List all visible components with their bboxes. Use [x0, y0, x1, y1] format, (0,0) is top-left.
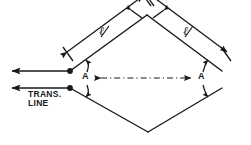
transmission-line-feed: [12, 68, 73, 91]
angle-leader-right-lower: [203, 85, 208, 97]
angle-label-right: A: [198, 72, 205, 82]
feed-terminal-upper: [67, 68, 73, 74]
diagram-canvas: [0, 0, 251, 145]
apex-arrow-right: [153, 10, 164, 18]
angle-leader-left-lower: [86, 85, 88, 97]
lower-right-leg: [148, 88, 222, 132]
apex-arrow-left: [131, 10, 142, 18]
dimension-right-measure: [152, 0, 227, 52]
dimension-left-tick-end: [141, 0, 151, 6]
dimension-line-left: [63, 0, 151, 61]
feed-terminal-lower: [67, 85, 73, 91]
angle-label-left: A: [82, 72, 89, 82]
length-label-right: ℓ: [183, 25, 188, 38]
rhombic-antenna-diagram: TRANS. LINE A A ℓ ℓ: [0, 0, 251, 145]
length-label-left: ℓ: [99, 25, 104, 38]
upper-left-leg: [70, 15, 147, 71]
dimension-right-tick-end: [221, 47, 231, 61]
trans-line-label: TRANS. LINE: [28, 90, 61, 108]
lower-left-leg: [70, 88, 148, 132]
apex-angle-arrows: [131, 10, 164, 18]
